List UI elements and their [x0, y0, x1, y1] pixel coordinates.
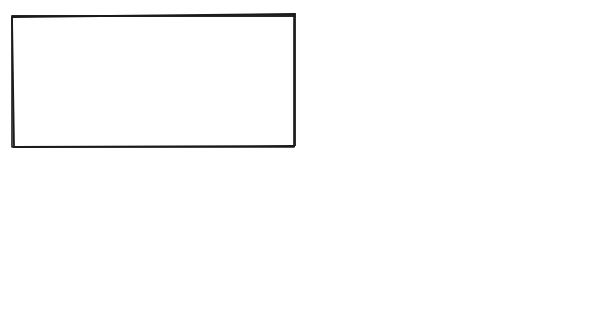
outer-frame — [12, 14, 595, 147]
frame-border-partial — [12, 16, 294, 147]
cord-hook-diagram — [0, 0, 605, 315]
diagram-canvas — [0, 0, 605, 315]
